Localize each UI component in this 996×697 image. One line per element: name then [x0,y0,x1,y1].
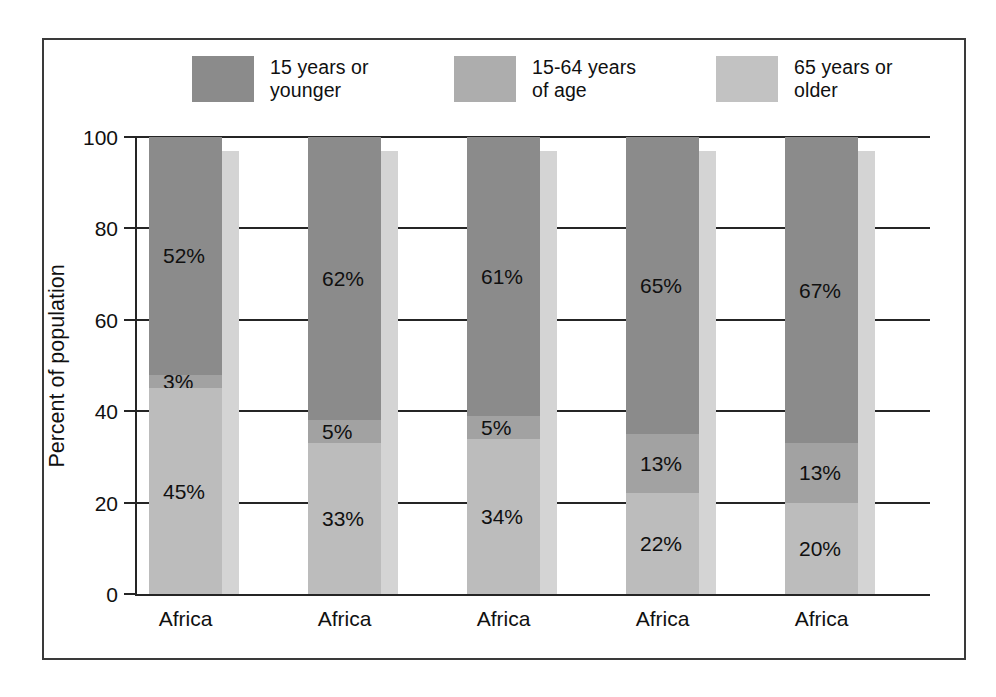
bar-segment-value-label: 61% [467,266,523,287]
bar-segment-value-label: 62% [308,268,364,289]
bar-shadow [540,151,557,594]
bar-stack: 61%5%34% [467,137,540,594]
bar-stack: 52%3%45% [149,137,222,594]
bar-shadow [699,151,716,594]
y-tick-label-40: 40 [95,401,118,422]
y-tick-0 [124,593,135,595]
y-tick-label-0: 0 [106,584,118,605]
bar-shadow [381,151,398,594]
bar-segment-value-label: 33% [308,508,364,529]
legend-label-15-or-younger: 15 years or younger [270,56,369,102]
bar-segment-value-label: 65% [626,275,682,296]
bar-segment[interactable]: 67% [785,137,858,443]
bar-segment-value-label: 52% [149,245,205,266]
bar-segment[interactable]: 33% [308,443,381,594]
y-tick-20 [124,502,135,504]
legend-swatch-15-or-younger [192,56,254,102]
legend-label-15-64-years: 15-64 years of age [532,56,636,102]
bar-segment[interactable]: 61% [467,137,540,416]
bar-segment[interactable]: 45% [149,388,222,594]
y-tick-60 [124,319,135,321]
x-axis-line [135,594,930,596]
y-tick-label-60: 60 [95,309,118,330]
bar-segment[interactable]: 62% [308,137,381,420]
bar-shadow [858,151,875,594]
bar-group[interactable]: 61%5%34%Africa [467,137,540,594]
bar-segment-value-label: 13% [785,462,841,483]
y-tick-80 [124,227,135,229]
x-axis-category-label: Africa [318,608,372,629]
bar-segment[interactable]: 65% [626,137,699,434]
y-tick-40 [124,410,135,412]
x-axis-category-label: Africa [636,608,690,629]
bar-segment-value-label: 5% [308,421,352,442]
bar-segment[interactable]: 22% [626,493,699,594]
bar-segment[interactable]: 5% [467,416,540,439]
x-axis-category-label: Africa [477,608,531,629]
bar-segment-value-label: 45% [149,481,205,502]
legend-label-65-or-older: 65 years or older [794,56,893,102]
bar-segment-value-label: 67% [785,280,841,301]
bar-segment[interactable]: 5% [308,420,381,443]
bar-segment-value-label: 34% [467,506,523,527]
y-tick-label-80: 80 [95,218,118,239]
bar-segment-value-label: 22% [626,533,682,554]
y-axis-line [135,136,137,595]
bar-segment-value-label: 20% [785,538,841,559]
bar-segment[interactable]: 13% [626,434,699,493]
legend-item-15-64-years[interactable]: 15-64 years of age [454,56,636,102]
legend-item-15-or-younger[interactable]: 15 years or younger [192,56,369,102]
bar-stack: 65%13%22% [626,137,699,594]
plot-area: Percent of population 020406080100 52%3%… [135,137,930,594]
y-tick-label-100: 100 [83,127,118,148]
y-tick-100 [124,136,135,138]
bar-segment[interactable]: 20% [785,503,858,594]
bar-segment-value-label: 13% [626,453,682,474]
bar-group[interactable]: 62%5%33%Africa [308,137,381,594]
bar-segment[interactable]: 13% [785,443,858,502]
legend-item-65-or-older[interactable]: 65 years or older [716,56,893,102]
y-axis-title: Percent of population [45,264,70,467]
legend-swatch-15-64-years [454,56,516,102]
bar-stack: 67%13%20% [785,137,858,594]
x-axis-category-label: Africa [795,608,849,629]
bar-group[interactable]: 52%3%45%Africa [149,137,222,594]
x-axis-category-label: Africa [159,608,213,629]
bar-group[interactable]: 65%13%22%Africa [626,137,699,594]
bar-segment[interactable]: 34% [467,439,540,594]
bar-shadow [222,151,239,594]
bar-stack: 62%5%33% [308,137,381,594]
figure-frame: 15 years or younger 15-64 years of age 6… [42,38,966,660]
bar-group[interactable]: 67%13%20%Africa [785,137,858,594]
legend-swatch-65-or-older [716,56,778,102]
bar-segment[interactable]: 3% [149,375,222,389]
y-tick-label-20: 20 [95,492,118,513]
bar-segment-value-label: 5% [467,417,511,438]
bar-segment[interactable]: 52% [149,137,222,375]
chart-legend: 15 years or younger 15-64 years of age 6… [44,40,964,124]
